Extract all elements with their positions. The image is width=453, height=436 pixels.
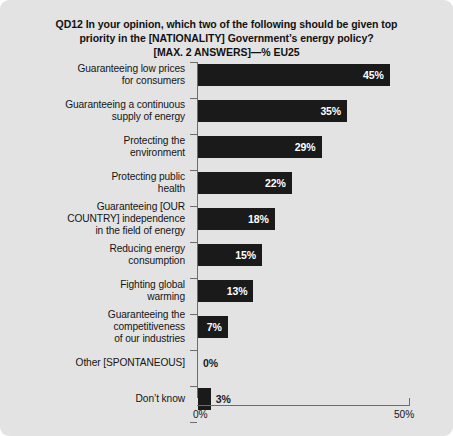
category-label: Don’t know [7,393,185,405]
category-label-line: health [7,183,185,195]
category-label-line: Fighting global [7,279,185,291]
category-label-line: environment [7,147,185,159]
category-axis-tick [190,386,197,387]
category-label: Guaranteeing a continuoussupply of energ… [7,99,185,123]
category-label-line: Don’t know [7,393,185,405]
bar-value-label: 18% [198,208,269,230]
category-label: Guaranteeing thecompetitivenessof our in… [7,309,185,344]
bar-value-label: 45% [198,64,384,86]
category-axis-tick [190,422,197,423]
category-axis-tick [190,170,197,171]
chart-category-row: Guaranteeing a continuoussupply of energ… [0,100,453,136]
category-axis-tick [190,62,197,63]
category-label: Reducing energyconsumption [7,243,185,267]
category-label-line: competitiveness [7,321,185,333]
chart-category-row: Guaranteeing low pricesfor consumers45% [0,64,453,100]
chart-title-line-3: [MAX. 2 ANSWERS]—% EU25 [22,45,431,59]
bar-value-label: 15% [198,244,256,266]
category-axis-tick [190,134,197,135]
category-label: Fighting globalwarming [7,279,185,303]
chart-category-row: Protecting theenvironment29% [0,136,453,172]
category-label-line: Other [SPONTANEOUS] [7,357,185,369]
category-label-line: Protecting the [7,135,185,147]
category-label: Other [SPONTANEOUS] [7,357,185,369]
category-label: Protecting theenvironment [7,135,185,159]
chart-category-row: Guaranteeing [OURCOUNTRY] independencein… [0,208,453,244]
bar-value-label: 7% [198,316,222,338]
category-axis-tick [190,314,197,315]
value-axis-line [197,405,410,406]
category-label-line: in the field of energy [7,225,185,237]
bar-value-label: 3% [216,388,256,410]
category-label-line: of our industries [7,333,185,345]
chart-title-line-2: priority in the [NATIONALITY] Government… [22,31,431,45]
category-label-line: COUNTRY] independence [7,213,185,225]
plot-area: Guaranteeing low pricesfor consumers45%G… [0,60,453,405]
category-label-line: warming [7,291,185,303]
bar-value-label: 13% [198,280,247,302]
chart-category-row: Guaranteeing thecompetitivenessof our in… [0,316,453,352]
chart-panel: QD12 In your opinion, which two of the f… [0,0,453,436]
category-label: Guaranteeing low pricesfor consumers [7,63,185,87]
category-label: Guaranteeing [OURCOUNTRY] independencein… [7,201,185,236]
value-axis-tick-50 [409,398,410,406]
chart-title: QD12 In your opinion, which two of the f… [22,17,431,60]
category-axis-tick [190,350,197,351]
category-label-line: Guaranteeing the [7,309,185,321]
chart-category-row: Reducing energyconsumption15% [0,244,453,280]
category-label-line: for consumers [7,75,185,87]
category-axis-tick [190,98,197,99]
category-label-line: supply of energy [7,111,185,123]
category-axis-tick [190,278,197,279]
category-axis-tick [190,206,197,207]
category-label-line: Guaranteeing low prices [7,63,185,75]
category-label-line: Reducing energy [7,243,185,255]
bar-value-label: 22% [198,172,286,194]
category-label-line: Protecting public [7,171,185,183]
category-axis-tick [190,242,197,243]
chart-category-row: Other [SPONTANEOUS]0% [0,352,453,388]
category-label-line: consumption [7,255,185,267]
bar-value-label: 0% [203,352,243,374]
category-label: Protecting publichealth [7,171,185,195]
bar-value-label: 29% [198,136,316,158]
value-axis-label-50: 50% [394,409,414,420]
category-label-line: Guaranteeing a continuous [7,99,185,111]
chart-title-line-1: QD12 In your opinion, which two of the f… [22,17,431,31]
bar-value-label: 35% [198,100,341,122]
chart-bar [198,388,211,410]
value-axis-label-0: 0% [193,409,208,420]
category-label-line: Guaranteeing [OUR [7,201,185,213]
